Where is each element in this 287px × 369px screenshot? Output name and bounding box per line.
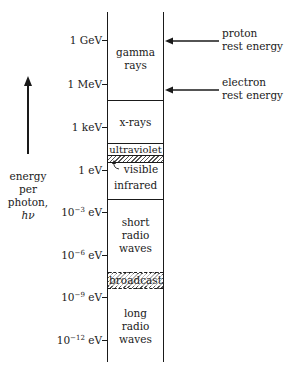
tick-label-1e-12eV: 10−12 eV [57, 334, 102, 346]
tick-label-1e-6eV: 10−6 eV [61, 249, 102, 261]
annotation-line: rest energy [222, 89, 283, 102]
annotation-line: proton [222, 27, 283, 40]
electron-arrow-icon [165, 85, 220, 95]
band-x-rays: x-rays [108, 116, 163, 129]
band-short-radio-waves: short radio waves [108, 216, 163, 255]
band-label-line: waves [108, 242, 163, 255]
band-broadcast: broadcast [108, 274, 163, 287]
visible-pointer-icon [110, 160, 122, 172]
boundary-gamma-xray [107, 100, 164, 101]
axis-label-line: energy [2, 170, 54, 183]
band-label-line: short [108, 216, 163, 229]
band-infrared: infrared [108, 179, 163, 192]
band-label-line: radio [108, 320, 163, 333]
proton-rest-energy-label: proton rest energy [222, 27, 283, 53]
tick-label-1MeV: 1 MeV [67, 78, 102, 90]
tick-label-1keV: 1 keV [72, 121, 102, 133]
band-gamma-rays: gamma rays [108, 46, 163, 72]
boundary-ir-radio [107, 199, 164, 200]
band-label-line: gamma [108, 46, 163, 59]
electron-rest-energy-label: electron rest energy [222, 76, 283, 102]
tick-label-1e-3eV: 10−3 eV [61, 206, 102, 218]
proton-arrow-icon [165, 36, 220, 46]
band-label-line: long [108, 307, 163, 320]
band-label-line: radio [108, 229, 163, 242]
tick-label-1eV: 1 eV [78, 164, 102, 176]
band-ultraviolet: ultraviolet [108, 143, 163, 156]
axis-label-line: hν [2, 209, 54, 222]
band-label-line: rays [108, 59, 163, 72]
annotation-line: rest energy [222, 40, 283, 53]
axis-label-line: per [2, 183, 54, 196]
tick-label-1e-9eV: 10−9 eV [61, 291, 102, 303]
band-visible: visible [118, 163, 164, 176]
up-arrow-icon [22, 76, 34, 156]
axis-label-line: photon, [2, 196, 54, 209]
band-long-radio-waves: long radio waves [108, 307, 163, 346]
tick-label-1GeV: 1 GeV [70, 34, 102, 46]
band-label-line: waves [108, 333, 163, 346]
annotation-line: electron [222, 76, 283, 89]
axis-label: energy per photon, hν [2, 170, 54, 222]
